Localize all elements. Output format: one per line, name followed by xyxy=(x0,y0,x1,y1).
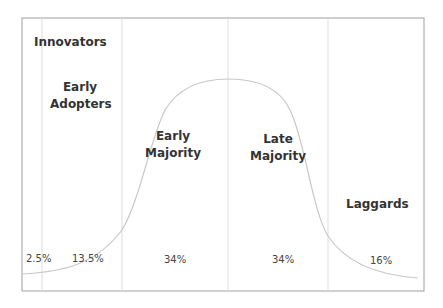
label-laggards: Laggards xyxy=(346,196,409,213)
label-late-majority: Late Majority xyxy=(245,131,311,165)
label-early-majority: Early Majority xyxy=(140,128,206,162)
label-late-majority-line2: Majority xyxy=(245,148,311,165)
percent-late-majority: 34% xyxy=(272,254,294,265)
label-early-adopters-line2: Adopters xyxy=(50,96,110,113)
label-early-majority-line2: Majority xyxy=(140,145,206,162)
label-late-majority-line1: Late xyxy=(245,131,311,148)
percent-laggards: 16% xyxy=(370,255,392,266)
label-innovators: Innovators xyxy=(34,34,107,51)
label-early-adopters-line1: Early xyxy=(50,79,110,96)
chart-frame xyxy=(22,18,424,291)
percent-innovators: 2.5% xyxy=(26,253,51,264)
percent-early-majority: 34% xyxy=(164,254,186,265)
label-early-majority-line1: Early xyxy=(140,128,206,145)
percent-early-adopters: 13.5% xyxy=(72,253,104,264)
label-early-adopters: Early Adopters xyxy=(50,79,110,113)
